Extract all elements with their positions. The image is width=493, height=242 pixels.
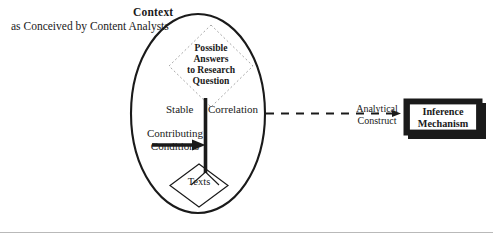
analytical-construct-label: Analytical Construct xyxy=(349,103,405,127)
context-title: Context xyxy=(133,6,173,18)
contributing-conditions-label: Contributing Conditions xyxy=(139,127,211,154)
context-subtitle: as Conceived by Content Analysts xyxy=(11,20,169,32)
texts-label: Texts xyxy=(183,176,215,187)
correlation-label: Correlation xyxy=(208,104,258,116)
stable-label: Stable xyxy=(166,104,194,116)
inference-mechanism-label: Inference Mechanism xyxy=(407,106,479,130)
figure-canvas: Context as Conceived by Content Analysts… xyxy=(0,0,493,242)
possible-answers-label: Possible Answers to Research Question xyxy=(177,42,245,87)
